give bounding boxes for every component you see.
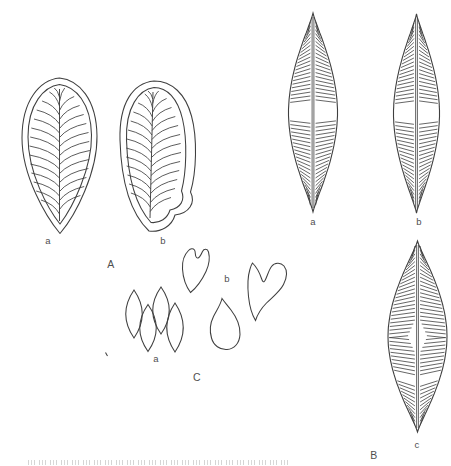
label-diatom-c: c	[414, 439, 419, 450]
botanical-line-art	[0, 0, 451, 466]
small-leaf-outlines	[182, 249, 286, 350]
label-leaf-b: b	[160, 235, 166, 246]
drop-shape	[210, 299, 240, 350]
lobed-shape-left	[182, 249, 209, 293]
leaflet-cluster-drawing	[126, 287, 184, 352]
label-group-C: C	[193, 371, 201, 383]
figure-canvas: a b A a b c B a b C	[0, 0, 451, 466]
label-leaf-a: a	[45, 235, 51, 246]
caption-fragment	[28, 460, 292, 465]
label-diatom-b: b	[416, 216, 422, 227]
leaf-drawing-a	[22, 78, 97, 234]
label-group-A: A	[107, 258, 114, 270]
diatom-drawing-b	[394, 14, 440, 213]
label-cluster-a: a	[153, 353, 159, 364]
label-group-B: B	[370, 449, 377, 461]
diatom-drawing-a	[289, 13, 338, 212]
leaf-drawing-b	[120, 81, 196, 231]
diatom-drawing-c	[388, 241, 447, 432]
stray-mark	[106, 353, 108, 357]
label-shapes-b: b	[224, 273, 230, 284]
label-diatom-a: a	[310, 216, 316, 227]
lobed-shape-right	[248, 263, 286, 321]
